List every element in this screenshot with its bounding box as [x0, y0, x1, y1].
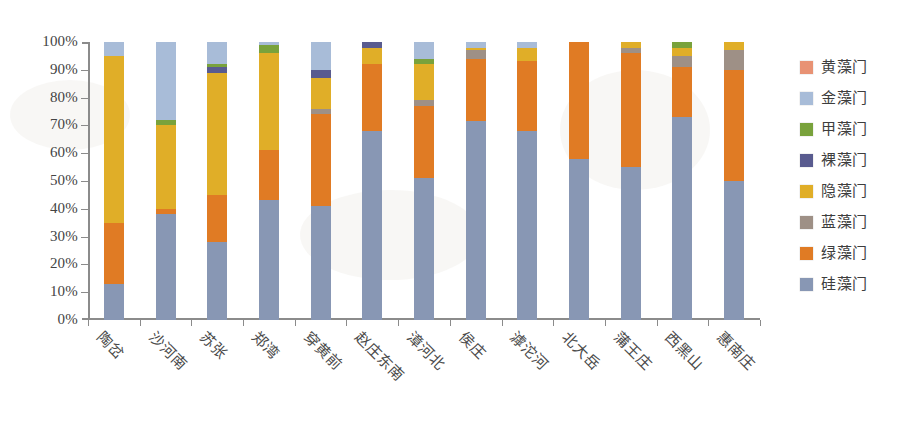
legend-color-swatch-icon: [800, 154, 813, 167]
bar-segment: [466, 59, 486, 122]
legend-item[interactable]: 甲藻门: [800, 114, 905, 145]
bar-segment: [311, 42, 331, 70]
legend-item-label: 黄藻门: [821, 60, 868, 75]
stacked-bar[interactable]: [311, 42, 331, 320]
bar-segment: [724, 50, 744, 69]
legend-color-swatch-icon: [800, 185, 813, 198]
stacked-bar[interactable]: [466, 42, 486, 320]
bar-slot: [401, 42, 447, 320]
x-axis-tick-label: 赵庄东南: [351, 326, 410, 385]
stacked-bar[interactable]: [259, 42, 279, 320]
x-axis-tick-label: 侯庄: [455, 326, 492, 363]
x-axis-tick-label: 漳河北: [403, 326, 451, 374]
bar-slot: [556, 42, 602, 320]
legend-item-label: 绿藻门: [821, 246, 868, 261]
bar-segment: [672, 48, 692, 56]
bar-segment: [517, 48, 537, 62]
x-axis-labels: 陶岔沙河南苏张郑湾穿黄前赵庄东南漳河北侯庄滹沱河北大岳蒲王庄西黑山惠南庄: [88, 320, 760, 420]
bar-segment: [104, 56, 124, 223]
x-axis-tick-label: 苏张: [196, 326, 233, 363]
bar-slot: [91, 42, 137, 320]
bar-segment: [311, 206, 331, 320]
bar-slot: [608, 42, 654, 320]
bar-segment: [724, 70, 744, 181]
y-axis-tick-label: 50%: [6, 173, 78, 188]
y-axis-tick-label: 30%: [6, 229, 78, 244]
legend-item[interactable]: 金藻门: [800, 83, 905, 114]
legend-item-label: 金藻门: [821, 91, 868, 106]
legend-color-swatch-icon: [800, 216, 813, 229]
bar-segment: [259, 200, 279, 320]
legend-item-label: 隐藻门: [821, 184, 868, 199]
stacked-bar[interactable]: [517, 42, 537, 320]
bar-segment: [156, 42, 176, 120]
x-axis-tick-label: 西黑山: [662, 326, 710, 374]
legend-item[interactable]: 黄藻门: [800, 52, 905, 83]
bar-segment: [672, 67, 692, 117]
bar-slot: [453, 42, 499, 320]
bar-group: [88, 42, 760, 320]
bar-segment: [207, 242, 227, 320]
stacked-bar-chart: 100%90%80%70%60%50%40%30%20%10%0% 陶岔沙河南苏…: [0, 0, 910, 421]
bar-segment: [207, 73, 227, 195]
legend-item[interactable]: 蓝藻门: [800, 207, 905, 238]
bar-segment: [311, 70, 331, 78]
legend-item-label: 甲藻门: [821, 122, 868, 137]
bar-segment: [414, 42, 434, 59]
bar-segment: [104, 284, 124, 320]
bar-segment: [414, 106, 434, 178]
y-axis-tick-label: 80%: [6, 90, 78, 105]
bar-segment: [259, 53, 279, 150]
bar-segment: [466, 50, 486, 58]
legend-item-label: 硅藻门: [821, 277, 868, 292]
stacked-bar[interactable]: [104, 42, 124, 320]
bar-segment: [362, 48, 382, 65]
stacked-bar[interactable]: [156, 42, 176, 320]
y-axis-tick-label: 60%: [6, 145, 78, 160]
x-axis-tick-label: 郑湾: [248, 326, 285, 363]
bar-slot: [711, 42, 757, 320]
bar-slot: [143, 42, 189, 320]
bar-segment: [259, 150, 279, 200]
stacked-bar[interactable]: [362, 42, 382, 320]
x-axis-tick-label: 沙河南: [145, 326, 193, 374]
y-axis-tick-label: 70%: [6, 117, 78, 132]
legend-item[interactable]: 硅藻门: [800, 269, 905, 300]
bar-segment: [569, 42, 589, 159]
bar-segment: [672, 117, 692, 320]
legend-item[interactable]: 隐藻门: [800, 176, 905, 207]
x-axis-tick-label: 陶岔: [93, 326, 130, 363]
y-axis-labels: 100%90%80%70%60%50%40%30%20%10%0%: [0, 0, 78, 421]
bar-slot: [298, 42, 344, 320]
legend-item-label: 裸藻门: [821, 153, 868, 168]
legend-color-swatch-icon: [800, 61, 813, 74]
legend: 黄藻门金藻门甲藻门裸藻门隐藻门蓝藻门绿藻门硅藻门: [800, 52, 905, 300]
bar-slot: [246, 42, 292, 320]
bar-segment: [724, 42, 744, 50]
stacked-bar[interactable]: [724, 42, 744, 320]
plot-area: [88, 42, 760, 320]
bar-slot: [194, 42, 240, 320]
legend-item[interactable]: 裸藻门: [800, 145, 905, 176]
bar-segment: [724, 181, 744, 320]
bar-segment: [207, 42, 227, 64]
bar-segment: [311, 78, 331, 109]
bar-segment: [517, 131, 537, 320]
bar-segment: [621, 53, 641, 167]
stacked-bar[interactable]: [414, 42, 434, 320]
bar-slot: [504, 42, 550, 320]
stacked-bar[interactable]: [672, 42, 692, 320]
legend-color-swatch-icon: [800, 247, 813, 260]
legend-item[interactable]: 绿藻门: [800, 238, 905, 269]
stacked-bar[interactable]: [569, 42, 589, 320]
stacked-bar[interactable]: [207, 42, 227, 320]
bar-segment: [414, 64, 434, 100]
bar-slot: [659, 42, 705, 320]
stacked-bar[interactable]: [621, 42, 641, 320]
bar-segment: [621, 167, 641, 320]
bar-segment: [259, 45, 279, 53]
bar-segment: [517, 61, 537, 131]
bar-segment: [156, 125, 176, 208]
bar-segment: [569, 159, 589, 320]
x-axis-tick-label: 穿黄前: [300, 326, 348, 374]
